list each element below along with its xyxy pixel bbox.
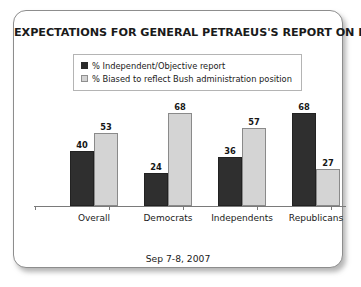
- page-title: EXPECTATIONS FOR GENERAL PETRAEUS'S REPO…: [14, 26, 342, 39]
- axis-tick: [331, 206, 332, 210]
- bar-value-label: 53: [100, 122, 112, 132]
- bar-value-label: 68: [298, 102, 310, 112]
- chart-legend: % Independent/Objective report % Biased …: [73, 54, 302, 91]
- bar-value-label: 68: [174, 102, 186, 112]
- bar: 27: [316, 169, 340, 206]
- bar-value-label: 57: [248, 117, 260, 127]
- bar: 24: [144, 173, 168, 206]
- bar-value-label: 36: [224, 146, 236, 156]
- category-label: Republicans: [289, 213, 343, 223]
- chart-card: EXPECTATIONS FOR GENERAL PETRAEUS'S REPO…: [13, 10, 343, 268]
- category-label: Democrats: [143, 213, 192, 223]
- bar: 68: [168, 113, 192, 207]
- legend-item-label: % Independent/Objective report: [92, 61, 225, 71]
- bar: 68: [292, 113, 316, 207]
- axis-tick: [257, 206, 258, 210]
- axis-tick: [109, 206, 110, 210]
- legend-item-label: % Biased to reflect Bush administration …: [92, 74, 292, 84]
- x-axis-line: [34, 206, 346, 207]
- bar: 53: [94, 133, 118, 206]
- bar: 40: [70, 151, 94, 206]
- light-swatch-icon: [81, 75, 88, 82]
- bar-value-label: 24: [150, 162, 162, 172]
- date-note: Sep 7-8, 2007: [14, 253, 342, 264]
- axis-tick: [183, 206, 184, 210]
- bar-plot-area: 4053246836576827: [34, 96, 354, 206]
- bar: 36: [218, 157, 242, 207]
- bar: 57: [242, 128, 266, 206]
- dark-swatch-icon: [81, 62, 88, 69]
- legend-item-biased: % Biased to reflect Bush administration …: [81, 72, 294, 85]
- axis-tick: [35, 206, 36, 210]
- category-label: Overall: [78, 213, 110, 223]
- legend-item-independent: % Independent/Objective report: [81, 59, 294, 72]
- bar-value-label: 40: [76, 140, 88, 150]
- bar-value-label: 27: [322, 158, 334, 168]
- category-label: Independents: [211, 213, 273, 223]
